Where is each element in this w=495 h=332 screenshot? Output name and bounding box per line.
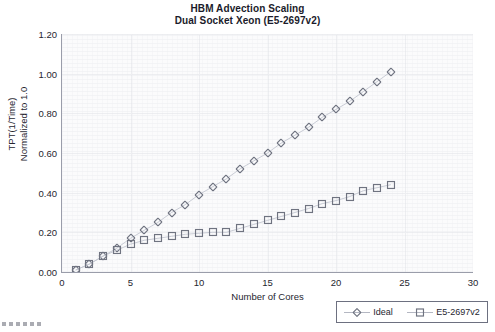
x-axis-tick-label: 10 bbox=[194, 277, 205, 288]
x-axis-tick-label: 0 bbox=[59, 277, 64, 288]
diamond-marker-icon bbox=[344, 307, 370, 318]
plot-area bbox=[62, 34, 473, 272]
square-marker-icon bbox=[407, 307, 433, 318]
x-axis-tick-label: 25 bbox=[399, 277, 410, 288]
legend-label: E5-2697v2 bbox=[436, 307, 480, 317]
legend-entry-ideal[interactable]: Ideal bbox=[344, 307, 393, 318]
chart-subtitle: Dual Socket Xeon (E5-2697v2) bbox=[0, 15, 495, 27]
x-axis-tick-label: 15 bbox=[262, 277, 273, 288]
x-axis-tick-label: 30 bbox=[468, 277, 479, 288]
y-axis-tick-label: 1.20 bbox=[5, 29, 57, 40]
x-axis-tick-label: 20 bbox=[331, 277, 342, 288]
y-axis-spine bbox=[61, 34, 62, 273]
chart-title: HBM Advection Scaling bbox=[0, 3, 495, 15]
y-axis-tick-label: 0.00 bbox=[5, 267, 57, 278]
y-axis-title-line1: TPT(1/Time) bbox=[6, 54, 18, 194]
chart-figure: HBM Advection Scaling Dual Socket Xeon (… bbox=[0, 0, 495, 332]
y-axis-title-line2: Normalized to 1.0 bbox=[18, 54, 30, 194]
y-axis-tick-label: 0.20 bbox=[5, 227, 57, 238]
chart-legend: IdealE5-2697v2 bbox=[336, 301, 488, 323]
legend-entry-e5-2697v2[interactable]: E5-2697v2 bbox=[407, 307, 480, 318]
x-axis-spine bbox=[61, 272, 473, 273]
x-axis-tick-label: 5 bbox=[128, 277, 133, 288]
series-line-e5-2697v2 bbox=[62, 34, 473, 272]
y-axis-title: TPT(1/Time) Normalized to 1.0 bbox=[6, 54, 30, 194]
legend-label: Ideal bbox=[373, 307, 393, 317]
chart-title-block: HBM Advection Scaling Dual Socket Xeon (… bbox=[0, 3, 495, 27]
page-edge-artifact bbox=[2, 322, 42, 326]
